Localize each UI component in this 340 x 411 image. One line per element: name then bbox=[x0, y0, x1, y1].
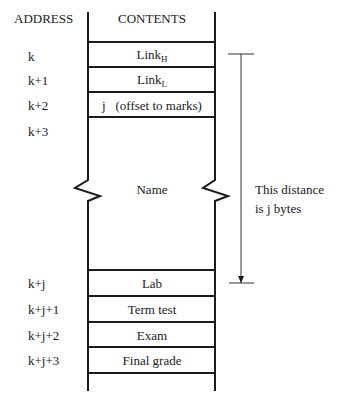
arrowhead-icon bbox=[238, 276, 244, 283]
dimension-line bbox=[228, 54, 254, 283]
address-label: k bbox=[28, 50, 35, 63]
subscript: H bbox=[161, 54, 168, 64]
cell-term-test: Term test bbox=[90, 303, 214, 316]
address-label: k+2 bbox=[28, 99, 48, 112]
address-header: ADDRESS bbox=[14, 12, 73, 25]
cell-link-high: LinkH bbox=[90, 48, 214, 61]
address-label: k+j+1 bbox=[28, 303, 59, 316]
dimension-note: This distance is j bytes bbox=[255, 180, 324, 218]
cell-lab: Lab bbox=[90, 277, 214, 290]
address-label: k+j bbox=[28, 277, 45, 290]
cell-name: Name bbox=[90, 183, 214, 196]
address-label: k+1 bbox=[28, 74, 48, 87]
cell-text: Link bbox=[137, 72, 162, 87]
cell-text: Link bbox=[136, 47, 161, 62]
address-label: k+j+2 bbox=[28, 329, 59, 342]
cell-exam: Exam bbox=[90, 329, 214, 342]
address-label: k+3 bbox=[28, 125, 48, 138]
dimension-note-line2: is j bytes bbox=[255, 199, 324, 218]
cell-offset: j (offset to marks) bbox=[90, 99, 214, 112]
address-label: k+j+3 bbox=[28, 354, 59, 367]
contents-header: CONTENTS bbox=[118, 12, 186, 25]
dimension-note-line1: This distance bbox=[255, 180, 324, 199]
subscript: L bbox=[162, 79, 168, 89]
cell-final-grade: Final grade bbox=[90, 354, 214, 367]
cell-link-low: LinkL bbox=[90, 73, 214, 86]
